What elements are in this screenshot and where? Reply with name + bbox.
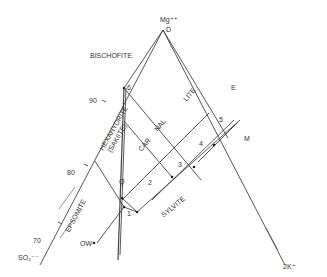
- tick-80: 80: [67, 169, 75, 176]
- field-bischofite: BISCHOFITE: [90, 52, 132, 59]
- point-3-label: 3: [178, 161, 182, 168]
- tick-90: 90: [89, 97, 97, 104]
- point-q-label: Q: [119, 178, 124, 185]
- point-e-label: E: [231, 84, 236, 91]
- point-6-label: 6: [127, 84, 131, 91]
- point-4-label: 4: [199, 140, 203, 147]
- diagram-lines: [0, 0, 327, 277]
- tick-70: 70: [33, 237, 41, 244]
- vertex-mg-label: Mg⁺⁺: [160, 16, 178, 23]
- point-1-label: 1: [127, 210, 131, 217]
- phase-diagram: Mg⁺⁺ D BISCHOFITE 90 80 70 SO₄⁻⁻ 2K⁺ E M…: [0, 0, 327, 277]
- point-5-label: 5: [219, 116, 223, 123]
- point-m-label: M: [244, 135, 250, 142]
- point-ow-label: OW: [80, 240, 92, 247]
- point-2-label: 2: [148, 179, 152, 186]
- vertex-2k-label: 2K⁺: [283, 263, 296, 270]
- vertex-so4-label: SO₄⁻⁻: [18, 254, 39, 261]
- point-d-label: D: [166, 26, 171, 33]
